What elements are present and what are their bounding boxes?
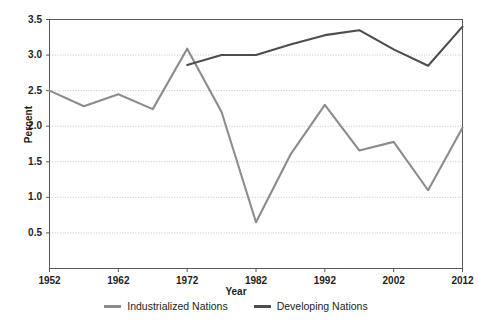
x-tick-label: 2002	[364, 276, 424, 286]
chart-legend: Industrialized NationsDeveloping Nations	[0, 300, 472, 312]
x-tick-label: 1952	[20, 276, 80, 286]
x-tick-label: 2012	[433, 276, 478, 286]
legend-item[interactable]: Developing Nations	[254, 300, 368, 312]
legend-swatch-developing	[254, 305, 271, 308]
legend-label: Developing Nations	[277, 300, 368, 312]
legend-swatch-industrialized	[104, 305, 121, 308]
x-tick-label: 1982	[226, 276, 286, 286]
x-tick-label: 1972	[157, 276, 217, 286]
x-axis-title: Year	[0, 286, 472, 297]
legend-item[interactable]: Industrialized Nations	[104, 300, 227, 312]
legend-label: Industrialized Nations	[127, 300, 227, 312]
x-tick-label: 1962	[88, 276, 148, 286]
x-tick-label: 1992	[295, 276, 355, 286]
